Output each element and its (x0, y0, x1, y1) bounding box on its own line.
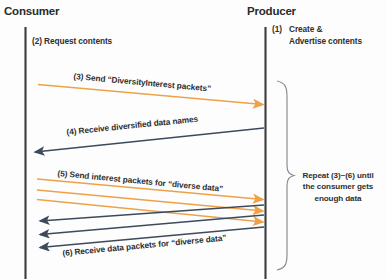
repeat-note: Repeat (3)~(6) until the consumer gets e… (298, 170, 378, 204)
note-request-contents: (2) Request contents (32, 36, 112, 46)
repeat-note-line3: enough data (298, 193, 378, 204)
note-1-line1: Create & (289, 24, 362, 36)
note-create-advertise: (1) Create & Advertise contents (272, 24, 362, 47)
repeat-note-line2: the consumer gets (298, 181, 378, 192)
note-1-line2: Advertise contents (289, 36, 362, 48)
note-1-number: (1) (272, 24, 282, 36)
sequence-diagram: Consumer Producer (1) Create & Advertise… (0, 0, 387, 279)
repeat-brace-icon (277, 81, 294, 270)
lane-title-producer: Producer (247, 5, 296, 17)
lane-title-consumer: Consumer (4, 5, 59, 17)
repeat-note-line1: Repeat (3)~(6) until (298, 170, 378, 181)
